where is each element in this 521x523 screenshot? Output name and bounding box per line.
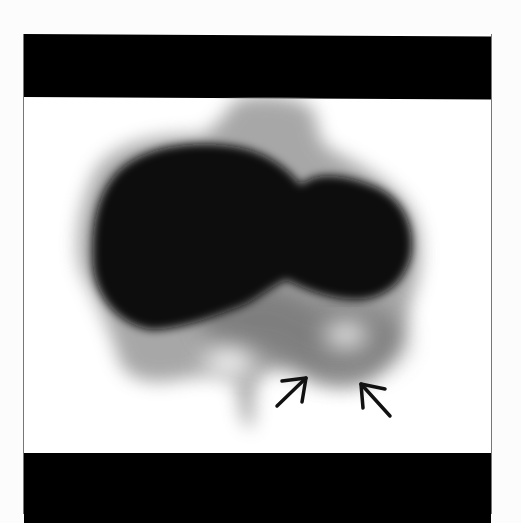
scintigraphy-image — [24, 97, 491, 453]
arrow-icon — [361, 384, 390, 416]
top-black-band — [24, 34, 491, 99]
bottom-black-band — [24, 453, 491, 523]
scan-frame — [23, 34, 492, 514]
arrow-icon — [277, 378, 306, 406]
